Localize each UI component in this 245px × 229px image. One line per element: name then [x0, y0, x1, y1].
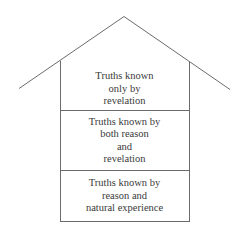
compartment-reason-and-experience: Truths known by reason and natural exper…	[60, 171, 189, 221]
compartment-text-line: reason and	[102, 190, 147, 203]
compartment-reason-and-revelation: Truths known by both reason and revelati…	[60, 111, 189, 170]
compartment-text-line: only by	[109, 83, 141, 96]
compartment-text-line: Truths known	[95, 70, 153, 83]
compartment-text-line: revelation	[104, 95, 146, 108]
compartment-text-line: Truths known by	[89, 116, 160, 129]
compartment-text-line: natural experience	[86, 202, 163, 215]
compartment-text-line: both reason	[100, 128, 149, 141]
compartment-revelation-only: Truths known only by revelation	[60, 70, 189, 108]
compartment-text-line: and	[117, 141, 132, 154]
compartment-text-line: revelation	[104, 153, 146, 166]
compartment-text-line: Truths known by	[89, 177, 160, 190]
